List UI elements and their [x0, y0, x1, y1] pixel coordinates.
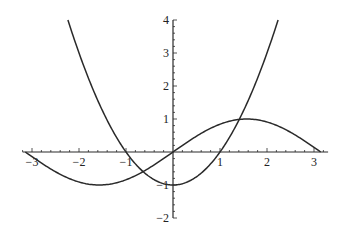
x-tick-label: 2 [264, 155, 270, 169]
tick-labels: −3−2−1123−2−11234 [26, 13, 317, 225]
x-tick-label: −2 [73, 155, 86, 169]
y-tick-label: −2 [156, 211, 169, 225]
x-tick-label: 3 [311, 155, 317, 169]
y-tick-label: 2 [163, 79, 169, 93]
y-tick-label: 3 [163, 46, 169, 60]
x-tick-label: 1 [217, 155, 223, 169]
function-plot: −3−2−1123−2−11234 [0, 0, 344, 236]
y-tick-label: 1 [163, 112, 169, 126]
y-tick-label: 4 [163, 13, 169, 27]
